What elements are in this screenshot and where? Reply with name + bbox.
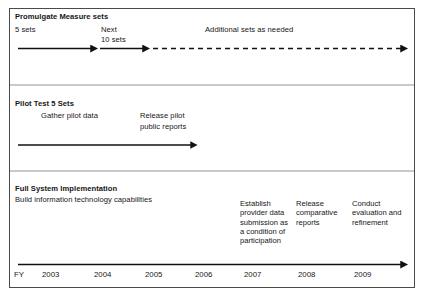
- label-additional-sets: Additional sets as needed: [205, 25, 293, 34]
- column-establish-provider-data: Establish provider data submission as a …: [240, 199, 292, 245]
- axis-year-2005: 2005: [145, 270, 162, 279]
- axis-year-2008: 2008: [298, 270, 315, 279]
- label-release-pilot-line2: public reports: [140, 122, 186, 131]
- axis-year-2009: 2009: [354, 270, 371, 279]
- axis-year-2006: 2006: [195, 270, 212, 279]
- label-release-pilot-line1: Release pilot: [140, 111, 185, 120]
- band-heading-promulgate: Promulgate Measure sets: [15, 12, 108, 21]
- axis-prefix-fy: FY: [14, 270, 24, 279]
- axis-year-2007: 2007: [244, 270, 261, 279]
- timeline-figure: Promulgate Measure sets 5 sets Next 10 s…: [0, 0, 430, 298]
- axis-year-2003: 2003: [42, 270, 59, 279]
- label-ten-sets: 10 sets: [101, 35, 126, 44]
- band-heading-full-system: Full System Implementation: [15, 184, 117, 193]
- axis-year-2004: 2004: [94, 270, 111, 279]
- figure-border: [9, 8, 415, 288]
- band-heading-pilot: Pilot Test 5 Sets: [15, 99, 74, 108]
- label-next: Next: [101, 25, 117, 34]
- band-subheading-full-system: Build information technology capabilitie…: [15, 195, 152, 204]
- column-conduct-evaluation: Conduct evaluation and refinement: [352, 199, 408, 227]
- label-gather-pilot-data: Gather pilot data: [41, 111, 98, 120]
- label-five-sets: 5 sets: [15, 25, 36, 34]
- column-release-comparative-reports: Release comparative reports: [296, 199, 346, 227]
